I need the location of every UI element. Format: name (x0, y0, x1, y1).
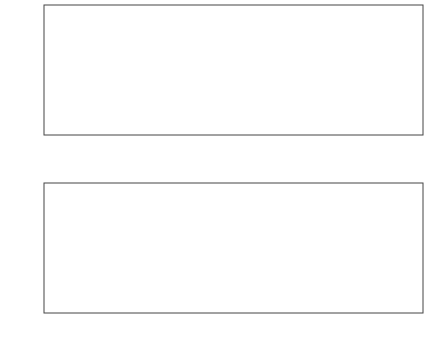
chart-figure (0, 0, 429, 353)
bottom-plot-frame (44, 183, 423, 313)
bottom-plot (0, 183, 423, 313)
top-plot (44, 5, 423, 135)
top-plot-frame (44, 5, 423, 135)
